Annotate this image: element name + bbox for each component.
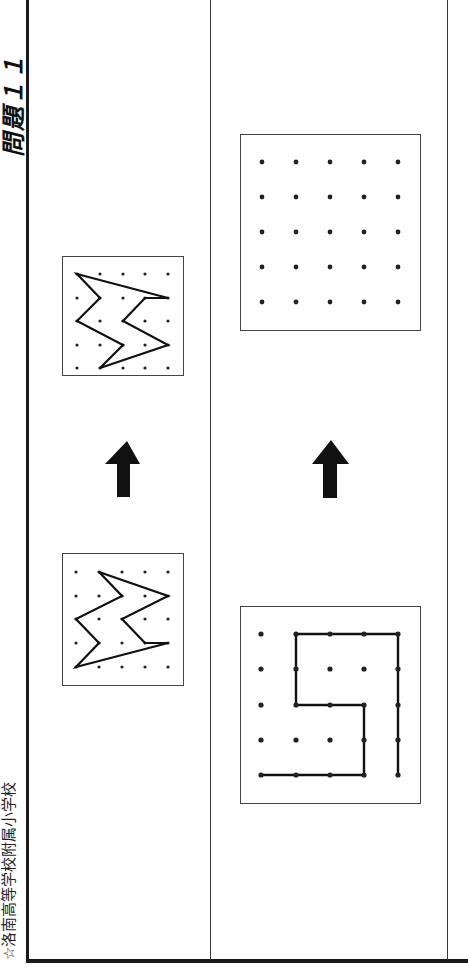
worksheet-figures xyxy=(0,0,468,969)
example-result-grid xyxy=(63,257,184,376)
worksheet-page: 問題１１ ☆洛南高等学校附属小学校 xyxy=(0,0,468,969)
example-original-grid xyxy=(63,554,184,686)
up-arrow-icon xyxy=(105,441,140,497)
question-original-grid xyxy=(241,607,421,804)
up-arrow-icon xyxy=(312,440,349,498)
answer-grid[interactable] xyxy=(241,135,421,331)
